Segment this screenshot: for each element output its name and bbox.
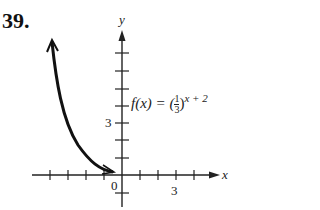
origin-label: 0 (111, 178, 118, 194)
x-tick-label-3: 3 (171, 183, 178, 199)
function-lhs: f(x) = ( (131, 95, 174, 111)
function-exponent: x + 2 (184, 92, 207, 104)
y-axis-arrow-icon (119, 30, 126, 41)
x-axis-arrow-icon (209, 172, 220, 179)
y-tick-label-3: 3 (105, 115, 112, 131)
x-axis-label: x (222, 167, 228, 183)
function-label: f(x) = (13)x + 2 (131, 92, 208, 115)
y-axis-label: y (119, 12, 125, 28)
